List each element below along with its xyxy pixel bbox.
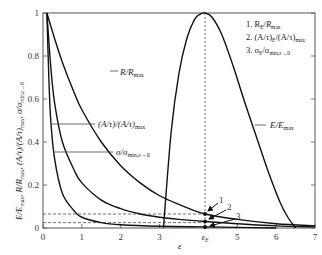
y-tick-label: 0.8 xyxy=(28,51,40,61)
marker-1: 1 xyxy=(219,195,224,205)
annotation-markers: 1 2 3 xyxy=(208,195,241,226)
x-tick-label: 0 xyxy=(41,232,46,242)
y-tick-label: 0.4 xyxy=(28,137,40,147)
y-tick-label: 0.6 xyxy=(28,94,40,104)
label-sigma: σ/σmin,ε→0 xyxy=(116,147,150,158)
x-tick-label: 6 xyxy=(274,232,279,242)
marker-3: 3 xyxy=(236,211,241,221)
curve--min- xyxy=(47,13,276,228)
label-e-over-emax: E/Emax xyxy=(269,120,294,131)
legend-entry-1: 1. RE/Rmax xyxy=(246,19,281,30)
chart: 00.20.40.60.81 0123εE567 R/Rmax (A/τ)/(A… xyxy=(0,0,322,255)
label-a-tau: (A/τ)/(A/τ)max xyxy=(98,119,145,130)
legend-entry-3: 3. σE/σmin,ε→0 xyxy=(246,45,290,56)
annotation-point xyxy=(203,220,207,224)
x-tick-label: 3 xyxy=(157,232,162,242)
annotation-point xyxy=(203,225,207,229)
x-tick-label: 5 xyxy=(235,232,240,242)
annotation-point xyxy=(203,212,207,216)
x-tick-label: εE xyxy=(201,232,209,243)
y-tick-label: 1 xyxy=(35,8,40,18)
y-tick-label: 0.2 xyxy=(28,180,39,190)
marker-2: 2 xyxy=(227,202,232,212)
x-tick-label: 7 xyxy=(313,232,318,242)
y-tick-label: 0 xyxy=(35,223,40,233)
legend-entry-2: 2. (A/τ)E/(A/τ)max xyxy=(246,32,305,43)
x-axis-label: ε xyxy=(178,241,182,251)
svg-text:E/Emax, R/Rmax, (A/τ)/(A/τ)max: E/Emax, R/Rmax, (A/τ)/(A/τ)max, σ/σmin,ε… xyxy=(14,82,25,221)
label-r-over-rmax: R/Rmax xyxy=(119,67,144,78)
x-tick-label: 2 xyxy=(118,232,123,242)
y-axis-label: E/Emax, R/Rmax, (A/τ)/(A/τ)max, σ/σmin,ε… xyxy=(14,82,25,221)
legend: 1. RE/Rmax 2. (A/τ)E/(A/τ)max 3. σE/σmin… xyxy=(246,19,305,56)
x-tick-label: 1 xyxy=(80,232,85,242)
